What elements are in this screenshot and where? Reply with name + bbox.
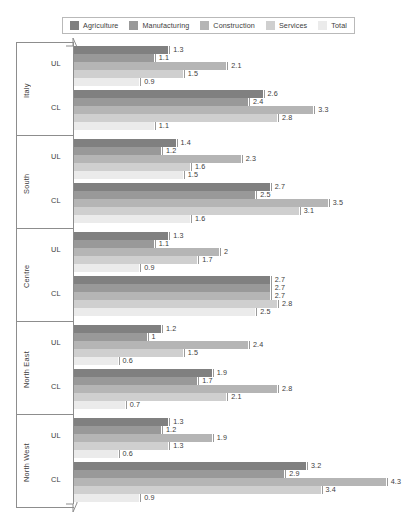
bar-row: 3.4 xyxy=(74,486,361,494)
bar-row: 1.3 xyxy=(74,418,208,426)
bar-total[interactable] xyxy=(74,357,118,365)
legend-item[interactable]: Total xyxy=(318,21,347,30)
bar-value-label: 1.2 xyxy=(166,425,176,434)
bar-row: 3.5 xyxy=(74,199,368,207)
bar-services[interactable] xyxy=(74,393,226,401)
legend-item[interactable]: Agriculture xyxy=(70,21,118,30)
bar-total[interactable] xyxy=(74,450,118,458)
legend-item[interactable]: Services xyxy=(266,21,307,30)
bar-row: 2.8 xyxy=(74,114,317,122)
bar-manufacturing[interactable] xyxy=(74,333,147,341)
legend-item[interactable]: Construction xyxy=(200,21,255,30)
bar-construction[interactable] xyxy=(74,155,241,163)
bar-construction[interactable] xyxy=(74,199,328,207)
bar-agriculture[interactable] xyxy=(74,183,270,191)
bar-row: 0.6 xyxy=(74,450,158,458)
bar-value-label: 1.9 xyxy=(217,368,227,377)
bar-manufacturing[interactable] xyxy=(74,377,197,385)
bar-services[interactable] xyxy=(74,300,277,308)
bar-row: 1.7 xyxy=(74,256,237,264)
bar-end-tick xyxy=(119,357,120,365)
bar-agriculture[interactable] xyxy=(74,418,168,426)
bar-construction[interactable] xyxy=(74,292,270,300)
bar-row: 1.4 xyxy=(74,139,216,147)
bar-value-label: 1.3 xyxy=(173,45,183,54)
bar-agriculture[interactable] xyxy=(74,139,176,147)
bar-row: 1.3 xyxy=(74,442,208,450)
bar-end-tick xyxy=(300,207,301,215)
bar-end-tick xyxy=(155,54,156,62)
bar-cluster: UL1.31.121.70.9 xyxy=(0,232,417,272)
cluster-axis-label: CL xyxy=(44,382,68,391)
bar-agriculture[interactable] xyxy=(74,232,168,240)
bar-construction[interactable] xyxy=(74,62,226,70)
bar-construction[interactable] xyxy=(74,478,386,486)
bar-manufacturing[interactable] xyxy=(74,426,161,434)
bar-value-label: 2.8 xyxy=(282,113,292,122)
bar-total[interactable] xyxy=(74,78,139,86)
bar-row: 2.8 xyxy=(74,385,317,393)
bar-total[interactable] xyxy=(74,171,183,179)
legend-item[interactable]: Manufacturing xyxy=(129,21,189,30)
bar-row: 2 xyxy=(74,248,259,256)
bar-agriculture[interactable] xyxy=(74,369,212,377)
bar-total[interactable] xyxy=(74,264,139,272)
chart-region-group: ItalyUL1.31.12.11.50.9CL2.62.43.32.81.1 xyxy=(0,44,417,137)
bar-services[interactable] xyxy=(74,442,168,450)
bar-value-label: 1.6 xyxy=(195,214,205,223)
legend-swatch-icon xyxy=(266,21,275,30)
bar-construction[interactable] xyxy=(74,341,248,349)
bar-end-tick xyxy=(264,90,265,98)
bar-total[interactable] xyxy=(74,401,125,409)
bar-row: 2.4 xyxy=(74,98,288,106)
bar-manufacturing[interactable] xyxy=(74,191,255,199)
bar-services[interactable] xyxy=(74,486,321,494)
bar-construction[interactable] xyxy=(74,106,313,114)
bar-services[interactable] xyxy=(74,163,190,171)
bar-services[interactable] xyxy=(74,114,277,122)
bar-row: 2.1 xyxy=(74,62,266,70)
bar-row: 1.2 xyxy=(74,426,201,434)
bar-end-tick xyxy=(227,62,228,70)
bar-manufacturing[interactable] xyxy=(74,98,248,106)
bar-row: 1.3 xyxy=(74,46,208,54)
bar-agriculture[interactable] xyxy=(74,276,270,284)
bar-manufacturing[interactable] xyxy=(74,284,270,292)
bar-agriculture[interactable] xyxy=(74,325,161,333)
bar-value-label: 1.3 xyxy=(173,441,183,450)
bar-value-label: 0.6 xyxy=(123,356,133,365)
bar-services[interactable] xyxy=(74,207,299,215)
bar-manufacturing[interactable] xyxy=(74,147,161,155)
bar-agriculture[interactable] xyxy=(74,46,168,54)
bar-value-label: 1.2 xyxy=(166,146,176,155)
bar-value-label: 1.5 xyxy=(188,348,198,357)
bar-value-label: 2.7 xyxy=(275,182,285,191)
region-separator xyxy=(16,414,74,415)
bar-total[interactable] xyxy=(74,215,190,223)
bar-construction[interactable] xyxy=(74,385,277,393)
bar-total[interactable] xyxy=(74,308,255,316)
bar-end-tick xyxy=(119,450,120,458)
bar-value-label: 1.7 xyxy=(202,255,212,264)
bar-end-tick xyxy=(140,78,141,86)
bar-total[interactable] xyxy=(74,494,139,502)
bar-construction[interactable] xyxy=(74,248,219,256)
bar-value-label: 2.8 xyxy=(282,384,292,393)
bar-end-tick xyxy=(184,349,185,357)
bar-manufacturing[interactable] xyxy=(74,470,284,478)
bar-total[interactable] xyxy=(74,122,154,130)
bar-row: 1.1 xyxy=(74,54,194,62)
bar-end-tick xyxy=(249,98,250,106)
legend-item-label: Services xyxy=(279,21,307,30)
bar-value-label: 3.1 xyxy=(304,206,314,215)
bar-manufacturing[interactable] xyxy=(74,240,154,248)
bar-agriculture[interactable] xyxy=(74,462,306,470)
region-separator xyxy=(16,42,74,43)
bar-services[interactable] xyxy=(74,70,183,78)
bar-agriculture[interactable] xyxy=(74,90,263,98)
bar-construction[interactable] xyxy=(74,434,212,442)
bar-services[interactable] xyxy=(74,256,197,264)
bar-end-tick xyxy=(271,276,272,284)
bar-manufacturing[interactable] xyxy=(74,54,154,62)
bar-value-label: 2.3 xyxy=(246,154,256,163)
